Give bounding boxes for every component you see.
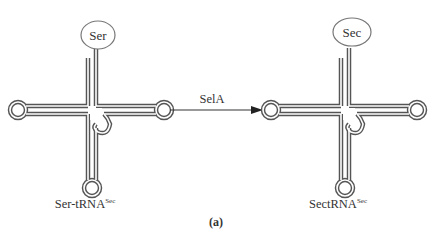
left-trna-structure xyxy=(10,48,172,196)
ser-amino-acid-bubble: Ser xyxy=(81,21,115,49)
sec-amino-acid-bubble: Sec xyxy=(333,18,371,46)
amino-acid-left-label: Ser xyxy=(89,28,107,43)
reaction-arrow xyxy=(170,106,263,114)
trna-conversion-diagram: Ser Ser-tRNASec SelA xyxy=(0,0,434,232)
right-molecule-name: SectRNASec xyxy=(309,197,367,211)
right-trna-structure xyxy=(263,48,425,196)
enzyme-label: SelA xyxy=(200,92,225,106)
left-molecule-name: Ser-tRNASec xyxy=(55,197,116,211)
amino-acid-right-label: Sec xyxy=(343,25,362,40)
panel-label: (a) xyxy=(209,215,223,229)
